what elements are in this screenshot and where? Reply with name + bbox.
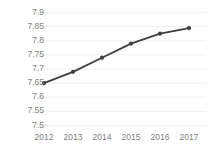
x-tick-label: 2014 <box>87 132 117 142</box>
x-axis-tick-labels: 201220132014201520162017 <box>0 0 212 150</box>
line-chart: Million(People) 7.97.857.87.757.77.657.6… <box>0 0 212 150</box>
x-tick-label: 2012 <box>29 132 59 142</box>
x-tick-label: 2015 <box>116 132 146 142</box>
x-tick-label: 2016 <box>145 132 175 142</box>
x-tick-label: 2017 <box>174 132 204 142</box>
x-tick-label: 2013 <box>58 132 88 142</box>
